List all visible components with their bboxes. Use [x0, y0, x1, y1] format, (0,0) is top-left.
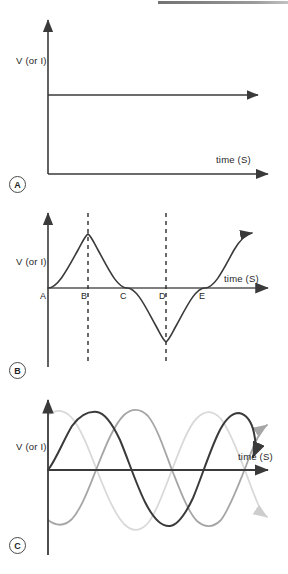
panel-b-y-axis-label: V (or I): [16, 257, 47, 267]
series-phase-2: [48, 410, 267, 526]
panel-b: V (or I) time (S) A B C D E B: [0, 195, 288, 385]
panel-b-plot: [0, 195, 288, 385]
tick-label-e: E: [199, 292, 205, 301]
panel-c-x-axis-label: time (S): [238, 452, 273, 462]
panel-a-y-axis-label: V (or I): [16, 56, 47, 66]
tick-label-d: D: [159, 292, 166, 301]
panel-c: V (or I) time (S) C: [0, 385, 288, 574]
panel-a-plot: [0, 0, 288, 195]
panel-b-x-axis-label: time (S): [224, 274, 259, 284]
panel-badge-b: B: [9, 362, 26, 379]
panel-c-y-axis-label: V (or I): [16, 442, 47, 452]
panel-badge-c: C: [9, 537, 26, 554]
panel-a-x-axis-label: time (S): [216, 155, 251, 165]
panel-badge-a: A: [9, 176, 26, 193]
panel-a: V (or I) time (S) A: [0, 0, 288, 195]
tick-label-b: B: [81, 292, 87, 301]
tick-label-a: A: [40, 292, 46, 301]
tick-label-c: C: [120, 292, 127, 301]
panel-c-plot: [0, 385, 288, 574]
